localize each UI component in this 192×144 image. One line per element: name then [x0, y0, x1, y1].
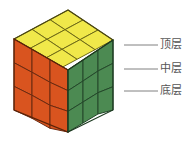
annotation-leader-lines: [124, 45, 158, 91]
label-top-layer: 顶层: [160, 39, 182, 50]
label-bottom-layer: 底层: [160, 85, 182, 96]
figure-canvas: 顶层 中层 底层: [0, 0, 192, 144]
label-middle-layer: 中层: [160, 63, 182, 74]
